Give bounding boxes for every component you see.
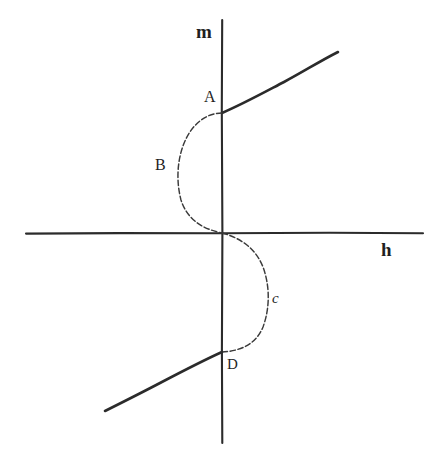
point-label-c: c <box>272 291 279 306</box>
unstable-branch-upper-lobe <box>178 113 222 233</box>
h-axis-label: h <box>381 240 392 259</box>
unstable-branch-lower-lobe <box>222 233 268 352</box>
upper-stable-branch <box>222 52 338 113</box>
plot-area <box>0 0 445 451</box>
point-label-d: D <box>227 357 238 372</box>
m-axis-label: m <box>196 22 212 41</box>
point-label-b: B <box>155 157 166 173</box>
point-label-a: A <box>204 89 216 105</box>
vertical-axis-line <box>222 20 223 443</box>
figure-canvas: m h A B c D <box>0 0 445 451</box>
lower-stable-branch <box>105 352 222 411</box>
